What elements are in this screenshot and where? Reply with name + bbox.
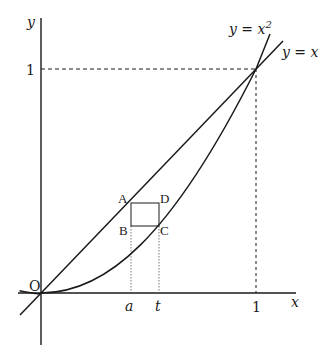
- x-axis-label: x: [291, 294, 299, 310]
- y-axis-label: y: [26, 14, 36, 30]
- y-tick-1: 1: [26, 62, 35, 78]
- graph-canvas: y x O 1 1 a t A B C D y = x2 y = x: [0, 0, 324, 353]
- origin-label: O: [29, 278, 40, 294]
- equation-parabola-base: y = x: [228, 21, 266, 37]
- point-label-a: A: [118, 191, 128, 206]
- rectangle-abcd: [131, 203, 159, 226]
- line-y-equals-x: [20, 41, 283, 315]
- equation-parabola-exponent: 2: [264, 19, 271, 30]
- point-label-c: C: [160, 223, 169, 238]
- equation-line: y = x: [281, 44, 319, 60]
- parabola-y-equals-x-squared: [20, 34, 271, 294]
- x-tick-a: a: [125, 298, 133, 314]
- x-tick-t: t: [155, 298, 161, 314]
- point-label-d: D: [160, 191, 169, 206]
- x-tick-1: 1: [252, 299, 261, 315]
- point-label-b: B: [119, 223, 128, 238]
- equation-parabola: y = x2: [228, 19, 272, 37]
